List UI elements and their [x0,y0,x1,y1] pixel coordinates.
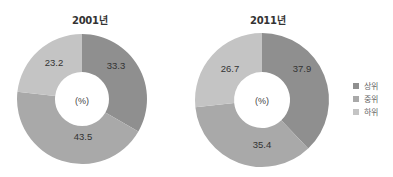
slice-label-2001-upper: 33.3 [107,60,126,71]
donut-slice-상위 [82,34,147,131]
slice-label-2011-lower: 26.7 [221,63,240,74]
legend-item-middle: 중위 [353,92,378,105]
legend-swatch-icon [353,83,359,89]
slice-label-2011-upper: 37.9 [293,63,312,74]
legend-label: 상위 [364,80,378,91]
legend-label: 하위 [364,106,378,117]
slice-label-2001-middle: 43.5 [74,131,93,142]
legend: 상위 중위 하위 [353,79,378,118]
legend-item-upper: 상위 [353,79,378,92]
slice-label-2011-middle: 35.4 [253,139,272,150]
center-label-2001: (%) [75,96,89,106]
slice-label-2001-lower: 23.2 [45,57,64,68]
center-label-2011: (%) [255,96,269,106]
legend-label: 중위 [364,93,378,104]
legend-swatch-icon [353,109,359,115]
legend-swatch-icon [353,96,359,102]
donut-charts: 33.3 43.5 23.2 (%) 37.9 35.4 26.7 (%) [0,0,393,177]
legend-item-lower: 하위 [353,105,378,118]
